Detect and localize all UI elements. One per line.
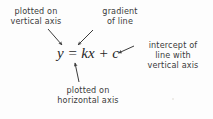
label-line: of line xyxy=(92,16,148,26)
label-plotted-on-vertical-axis: plotted on vertical axis xyxy=(4,6,68,26)
label-line: plotted on xyxy=(38,85,138,95)
label-intercept-of-line-with-vertical-axis: intercept of line with vertical axis xyxy=(136,40,210,71)
paper-speck xyxy=(172,98,174,100)
label-line: intercept of xyxy=(136,40,210,50)
equation-y-equals-kx-plus-c: y = kx + c xyxy=(57,45,119,62)
arrow-to-k-icon xyxy=(78,30,93,45)
arrow-to-y-icon xyxy=(48,29,62,45)
label-line: vertical axis xyxy=(4,16,68,26)
label-plotted-on-horizontal-axis: plotted on horizontal axis xyxy=(38,85,138,105)
diagram-canvas: plotted on vertical axis gradient of lin… xyxy=(0,0,213,119)
arrow-to-x-icon xyxy=(75,63,79,82)
label-gradient-of-line: gradient of line xyxy=(92,6,148,26)
label-line: horizontal axis xyxy=(38,95,138,105)
arrow-to-c-icon xyxy=(119,46,135,53)
label-line: line with xyxy=(136,50,210,60)
label-line: plotted on xyxy=(4,6,68,16)
label-line: vertical axis xyxy=(136,60,210,70)
label-line: gradient xyxy=(92,6,148,16)
